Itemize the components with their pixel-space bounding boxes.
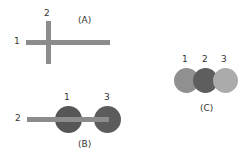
circle-c-3: [213, 68, 238, 93]
label-c-3: 3: [221, 55, 227, 64]
bar-1-horizontal: [26, 40, 110, 45]
label-b-3: 3: [104, 93, 110, 102]
label-a-1: 1: [14, 37, 20, 46]
label-c-1: 1: [182, 55, 188, 64]
label-c-2: 2: [202, 55, 208, 64]
bar-2-vertical: [46, 21, 51, 64]
bar-b-2: [27, 117, 109, 122]
caption-c: (C): [200, 104, 213, 113]
label-b-1: 1: [64, 93, 70, 102]
label-b-2: 2: [15, 114, 21, 123]
caption-b: (B): [78, 140, 91, 149]
label-a-2: 2: [44, 9, 50, 18]
caption-a: (A): [78, 16, 91, 25]
